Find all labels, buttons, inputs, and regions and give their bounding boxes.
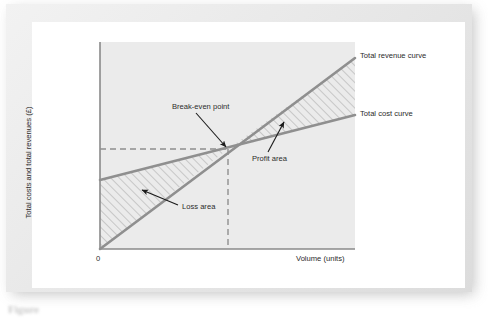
break-even-figure: Total revenue curve Total cost curve Bre…: [0, 0, 498, 319]
profit-area-label: Profit area: [252, 155, 287, 163]
break-even-point-arrow: [196, 113, 226, 147]
caption-fragment: Figure: [8, 303, 158, 317]
break-even-point-label: Break-even point: [172, 103, 229, 111]
break-even-chart: [0, 0, 498, 319]
total-revenue-curve-label: Total revenue curve: [360, 52, 426, 60]
y-axis-label: Total costs and total revenues (£): [24, 83, 33, 243]
total-cost-curve-label: Total cost curve: [360, 110, 413, 118]
origin-tick-label: 0: [96, 255, 100, 263]
loss-area-label: Loss area: [182, 203, 215, 211]
x-axis-label: Volume (units): [296, 255, 345, 263]
